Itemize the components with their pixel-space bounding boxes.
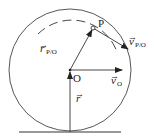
svg-text:v: v — [111, 74, 116, 86]
diagram-canvas: P O → r P/O → v P/O → v O → r — [0, 0, 154, 138]
r-po-vector — [70, 30, 92, 70]
label-v-o: → v O — [110, 71, 122, 88]
point-p-marker — [91, 26, 95, 30]
svg-text:r: r — [40, 42, 45, 54]
point-o-dot — [69, 69, 72, 72]
label-v-po: → v P/O — [128, 32, 146, 49]
svg-text:O: O — [117, 80, 122, 88]
svg-text:P/O: P/O — [46, 48, 57, 56]
label-r: → r — [75, 89, 84, 104]
svg-text:P/O: P/O — [135, 41, 146, 49]
label-r-po: → r P/O — [39, 40, 57, 56]
svg-text:r: r — [76, 92, 81, 104]
label-o: O — [73, 72, 81, 84]
label-p: P — [98, 17, 104, 29]
svg-text:v: v — [129, 35, 134, 47]
